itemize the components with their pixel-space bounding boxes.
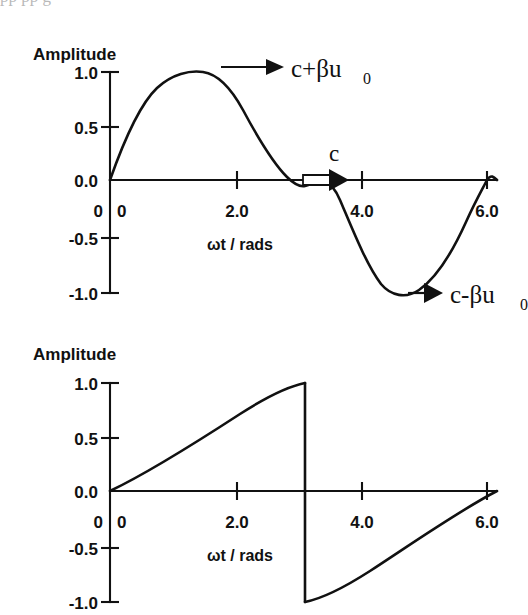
annotation-subscript-c-plus: 0 [363,70,371,87]
x-origin-label-top-left: 0 [94,202,103,221]
y-tick-label-bottom-1.0: 1.0 [74,375,98,394]
y-tick-label-bottom-neg1.0: -1.0 [69,594,98,613]
annotation-subscript-c-minus: 0 [520,296,528,312]
arrow-shaft-c [303,175,331,185]
arrow-head-c-minus-icon [424,283,443,303]
sawtooth-wave-curve-rising [110,383,305,491]
x-tick-label-bottom-6.0: 6.0 [475,513,499,532]
x-tick-label-top-4.0: 4.0 [350,202,374,221]
annotation-label-c: c [329,141,339,166]
y-tick-label-top-1.0: 1.0 [74,64,98,83]
x-tick-label-top-2.0: 2.0 [225,202,249,221]
arrow-head-c-plus-icon [266,59,284,75]
arrow-head-c-icon [329,169,349,191]
x-axis-title-top: ωt / rads [207,236,273,253]
x-tick-label-bottom-4.0: 4.0 [350,513,374,532]
x-origin-label-top-right: 0 [117,202,126,221]
sawtooth-wave-recovery [305,491,497,602]
annotation-label-c-minus-beta-u0: c-βu [450,281,495,308]
y-tick-label-top-0.0: 0.0 [74,172,98,191]
y-axis-title-bottom: Amplitude [33,345,116,364]
figure-root: pp pp g Amplitude 1.0 0.5 0.0 -0.5 -1.0 [0,0,528,615]
y-tick-label-top-neg0.5: -0.5 [69,230,98,249]
x-tick-label-bottom-2.0: 2.0 [225,513,249,532]
x-origin-label-bottom-left: 0 [94,513,103,532]
x-tick-label-top-6.0: 6.0 [475,202,499,221]
y-axis-title-top: Amplitude [33,45,116,64]
y-tick-label-bottom-0.0: 0.0 [74,483,98,502]
chart-panel-top: Amplitude 1.0 0.5 0.0 -0.5 -1.0 0 0 2.0 [0,0,528,312]
x-origin-label-bottom-right: 0 [117,513,126,532]
y-tick-label-bottom-neg0.5: -0.5 [69,540,98,559]
annotation-c-minus-beta-u0: c-βu 0 [408,281,528,312]
chart-panel-bottom: Amplitude 1.0 0.5 0.0 -0.5 -1.0 0 0 2.0 [0,312,528,615]
annotation-c-plus-beta-u0: c+βu 0 [221,55,371,87]
y-tick-label-bottom-0.5: 0.5 [74,430,98,449]
x-axis-title-bottom: ωt / rads [207,547,273,564]
y-tick-label-top-0.5: 0.5 [74,119,98,138]
y-tick-label-top-neg1.0: -1.0 [69,285,98,304]
annotation-c: c [303,141,349,191]
annotation-label-c-plus-beta-u0: c+βu [291,55,342,82]
